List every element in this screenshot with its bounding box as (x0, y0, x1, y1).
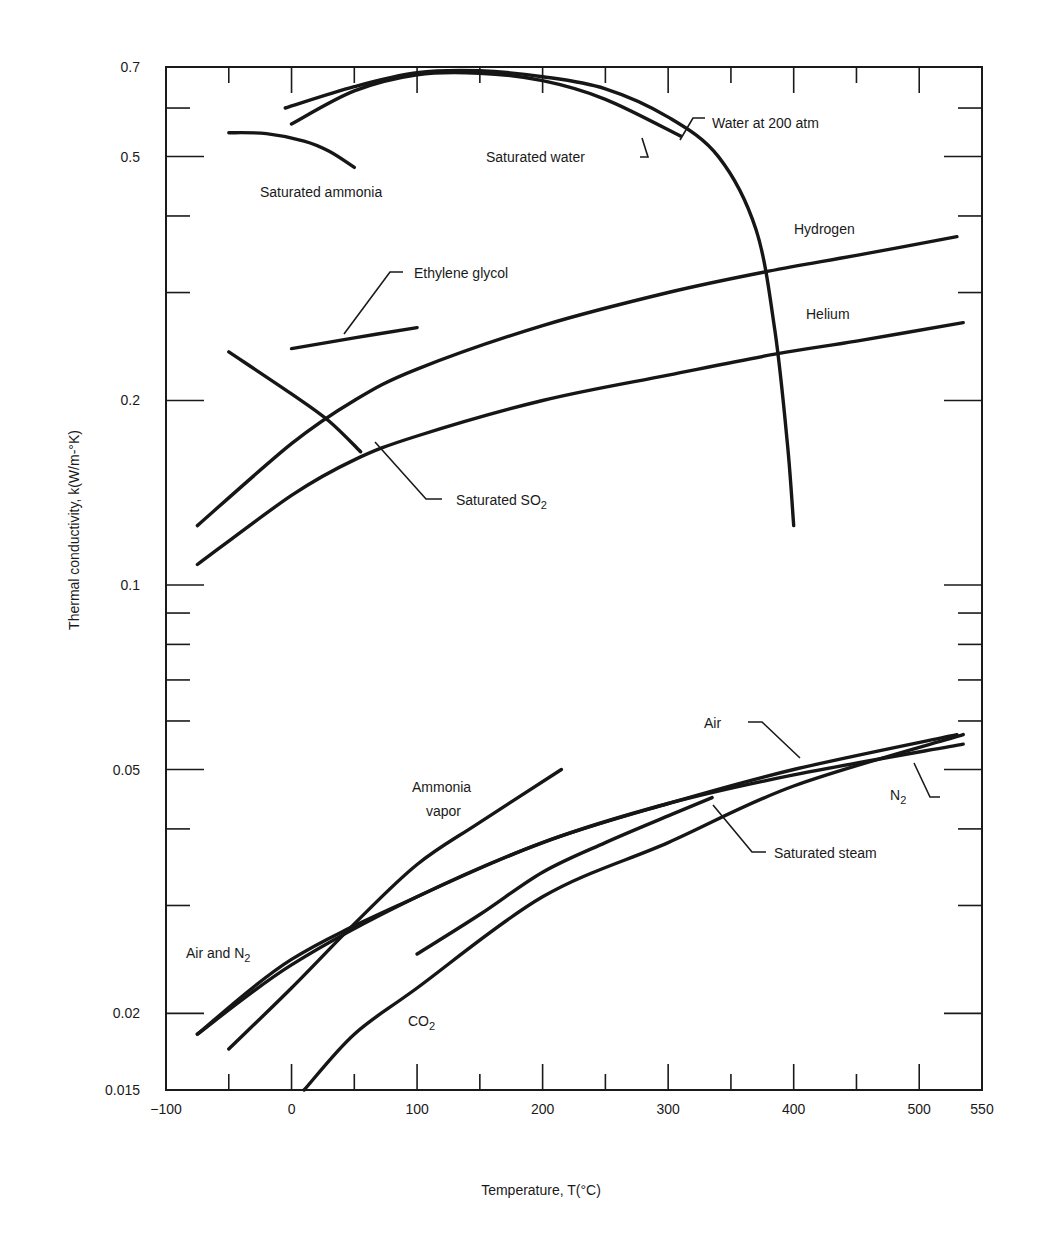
air-leader (748, 722, 800, 758)
curve-helium (197, 323, 963, 565)
curve-air (197, 735, 957, 1035)
y-tick-label: 0.5 (121, 149, 141, 165)
thermal-conductivity-chart: −10001002003004005005500.0150.020.050.10… (0, 0, 1058, 1238)
label-ammonia-vapor-line2: vapor (426, 803, 461, 819)
x-tick-label: 500 (908, 1101, 932, 1117)
y-axis-title: Thermal conductivity, k(W/m-°K) (66, 430, 82, 630)
ethylene-glycol-leader (344, 272, 403, 334)
y-tick-label: 0.015 (105, 1082, 140, 1098)
x-axis-title: Temperature, T(°C) (481, 1182, 601, 1198)
curve-ethylene-glycol (292, 328, 418, 349)
y-tick-label: 0.2 (121, 392, 141, 408)
y-tick-label: 0.05 (113, 762, 140, 778)
chart-root: −10001002003004005005500.0150.020.050.10… (0, 0, 1058, 1238)
n2-leader (914, 763, 940, 797)
label-air: Air (704, 715, 721, 731)
axes (166, 67, 982, 1090)
label-saturated-water: Saturated water (486, 149, 585, 165)
label-ammonia-vapor-line1: Ammonia (412, 779, 471, 795)
saturated-steam-leader (713, 805, 766, 852)
plot-frame (166, 67, 982, 1090)
saturated-water-leader (640, 138, 648, 157)
label-air-and-n2: Air and N2 (186, 945, 250, 964)
water-200atm-leader (680, 118, 705, 140)
x-tick-label: 0 (288, 1101, 296, 1117)
x-tick-label: 550 (970, 1101, 994, 1117)
y-tick-label: 0.7 (121, 59, 141, 75)
label-water-200atm: Water at 200 atm (712, 115, 819, 131)
label-helium: Helium (806, 306, 850, 322)
label-ethylene-glycol: Ethylene glycol (414, 265, 508, 281)
x-tick-label: 400 (782, 1101, 806, 1117)
y-tick-label: 0.1 (121, 577, 141, 593)
curve-saturated-ammonia (229, 133, 354, 168)
x-tick-label: 200 (531, 1101, 555, 1117)
saturated-so2-leader (375, 442, 442, 499)
label-saturated-so2: Saturated SO2 (456, 492, 547, 511)
label-co2: CO2 (408, 1013, 435, 1032)
x-tick-label: 300 (656, 1101, 680, 1117)
ticks (166, 67, 982, 1090)
curve-co2 (304, 735, 963, 1090)
x-tick-label: 100 (405, 1101, 429, 1117)
curve-n2 (197, 744, 963, 1034)
label-saturated-steam: Saturated steam (774, 845, 877, 861)
label-saturated-ammonia: Saturated ammonia (260, 184, 382, 200)
label-hydrogen: Hydrogen (794, 221, 855, 237)
curve-saturated-water (292, 72, 681, 136)
x-tick-label: −100 (150, 1101, 182, 1117)
y-tick-label: 0.02 (113, 1005, 140, 1021)
label-n2: N2 (890, 787, 906, 806)
curve-saturated-so2 (229, 352, 361, 452)
